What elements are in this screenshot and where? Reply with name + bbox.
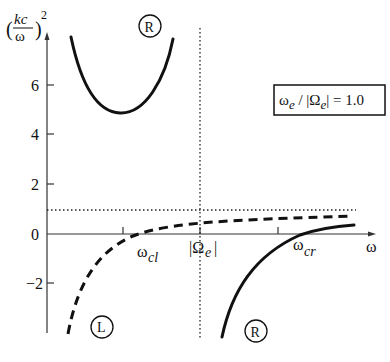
parameter-legend-box: ωe / |Ωe| = 1.0 bbox=[274, 85, 385, 115]
y-axis-label: ( kc ω ) 2 bbox=[6, 8, 47, 44]
y-tick-label-2: 2 bbox=[31, 176, 39, 193]
dispersion-diagram: ( kc ω ) 2 6 4 2 0 −2 ω cl |Ω e | ω cr bbox=[0, 0, 390, 362]
omega-cr-sub: cr bbox=[304, 244, 316, 259]
y-tick-label-4: 4 bbox=[31, 126, 39, 143]
curve-R-upper bbox=[71, 37, 173, 113]
y-axis-arrow-icon bbox=[45, 32, 50, 40]
y-tick-label-0: 0 bbox=[31, 226, 39, 243]
x-marker-Omega-e: |Ω e | bbox=[189, 239, 217, 260]
y-label-exponent: 2 bbox=[41, 8, 47, 22]
y-tick-label-neg2: −2 bbox=[26, 275, 43, 292]
R-upper-text: R bbox=[145, 20, 155, 35]
L-text: L bbox=[97, 320, 106, 335]
y-label-numerator: kc bbox=[14, 11, 28, 27]
x-marker-omega-cl: ω cl bbox=[137, 243, 158, 265]
R-lower-text: R bbox=[251, 325, 261, 340]
branch-label-R-upper: R bbox=[139, 15, 161, 37]
x-axis-arrow-icon bbox=[368, 232, 376, 237]
branch-label-L: L bbox=[91, 316, 113, 338]
Omega-e-sub: e bbox=[205, 245, 211, 260]
x-marker-omega-cr: ω cr bbox=[293, 236, 316, 259]
y-label-open-paren: ( bbox=[6, 18, 13, 41]
omega-cl-sub: cl bbox=[148, 250, 158, 265]
omega-cl-main: ω bbox=[137, 243, 148, 260]
Omega-e-main: |Ω bbox=[189, 239, 204, 257]
x-axis-label: ω bbox=[366, 238, 377, 255]
Omega-e-end: | bbox=[214, 239, 217, 257]
branch-label-R-lower: R bbox=[245, 320, 267, 342]
y-tick-label-6: 6 bbox=[31, 77, 39, 94]
y-label-denominator: ω bbox=[15, 28, 25, 44]
y-ticks: 6 4 2 0 −2 bbox=[26, 77, 54, 292]
curve-R-lower bbox=[222, 225, 354, 337]
